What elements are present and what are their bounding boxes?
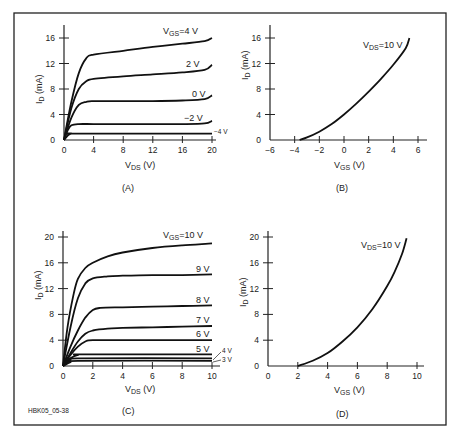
x-tick-label: 10 [207, 371, 217, 381]
x-tick-label: 4 [325, 371, 330, 381]
x-tick-label: 0 [61, 371, 66, 381]
y-tick-label: 20 [45, 232, 55, 242]
y-tick-label: 20 [250, 232, 260, 242]
y-tick-label: 16 [250, 258, 260, 268]
series-label-minus2v: −2 V [184, 113, 203, 123]
series-label-8v: 8 V [196, 295, 210, 305]
y-tick-label: 0 [256, 135, 261, 145]
x-tick-label: 8 [385, 371, 390, 381]
y-tick-label: 0 [254, 361, 259, 371]
x-axis-label: VGS (V) [334, 385, 365, 396]
curve-v-ds-10-v [298, 238, 407, 366]
x-tick-label: 0 [62, 145, 67, 155]
chart-panel-b: −6−4−202460481216 VDS=10 V VGS (V) ID (m… [240, 25, 427, 193]
series-label-9v: 9 V [196, 264, 210, 274]
y-tick-label: 8 [50, 84, 55, 94]
x-axis-label: VGS (V) [334, 160, 365, 171]
series-label-2v: 2 V [186, 59, 200, 69]
x-tick-label: 4 [91, 145, 96, 155]
series-label-vds-10: VDS=10 V [361, 240, 401, 251]
series-label-4v: 4 V [222, 347, 232, 354]
curve-3-v [63, 361, 212, 366]
x-tick-label: 4 [391, 145, 396, 155]
y-tick-label: 0 [50, 135, 55, 145]
x-tick-label: 12 [148, 145, 158, 155]
x-axis-label: VDS (V) [125, 384, 155, 395]
y-tick-label: 16 [252, 33, 262, 43]
series-label-vgs-10: VGS=10 V [163, 230, 203, 241]
x-tick-label: 6 [355, 371, 360, 381]
series-label-0v: 0 V [192, 89, 206, 99]
series-label-vgs-4: VGS=4 V [163, 26, 198, 37]
x-tick-label: 4 [120, 371, 125, 381]
chart-panel-c: 0246810048121620 VGS=10 V 9 V 8 V 7 V 6 … [28, 230, 232, 416]
x-tick-label: 0 [266, 371, 271, 381]
curve-9-v [63, 274, 212, 366]
leader-line-4v [213, 352, 221, 360]
y-tick-label: 12 [46, 59, 56, 69]
panel-caption: (A) [122, 183, 134, 193]
series-label-vds-10: VDS=10 V [363, 40, 403, 51]
panel-caption: (C) [122, 406, 135, 416]
leader-line-3v [213, 360, 221, 362]
series-label-7v: 7 V [196, 315, 210, 325]
y-axis-label: ID (mA) [33, 270, 44, 300]
y-tick-label: 8 [49, 309, 54, 319]
figure: 0481216200481216 VGS=4 V 2 V 0 V −2 V −4… [0, 0, 452, 434]
x-tick-label: 8 [121, 145, 126, 155]
x-axis-label: VDS (V) [125, 160, 155, 171]
x-tick-label: 8 [180, 371, 185, 381]
curve-6-v [63, 340, 212, 366]
y-tick-label: 4 [50, 110, 55, 120]
x-tick-label: 10 [412, 371, 422, 381]
series-label-minus4v: −4 V [214, 128, 228, 135]
series-label-6v: 6 V [196, 329, 210, 339]
y-axis-label: ID (mA) [240, 50, 251, 80]
x-tick-label: −4 [290, 145, 300, 155]
y-tick-label: 4 [49, 335, 54, 345]
curve-v-ds-10-v [300, 38, 410, 140]
series-label-3v: 3 V [222, 356, 232, 363]
y-tick-label: 12 [250, 284, 260, 294]
y-tick-label: 12 [45, 284, 55, 294]
chart-panel-d: 0246810048121620 VDS=10 V VGS (V) ID (mA… [238, 231, 424, 419]
x-tick-label: 6 [416, 145, 421, 155]
x-tick-label: 2 [295, 371, 300, 381]
curve--4-v [64, 133, 212, 140]
x-tick-label: −2 [314, 145, 324, 155]
curve--2-v [64, 121, 212, 140]
y-tick-label: 8 [254, 309, 259, 319]
x-tick-label: 0 [342, 145, 347, 155]
panel-caption: (B) [336, 183, 348, 193]
x-tick-label: 2 [366, 145, 371, 155]
y-axis-label: ID (mA) [238, 277, 249, 307]
panel-caption: (D) [336, 409, 349, 419]
y-tick-label: 16 [46, 33, 56, 43]
series-label-5v: 5 V [196, 344, 210, 354]
x-tick-label: 6 [150, 371, 155, 381]
x-tick-label: −6 [265, 145, 275, 155]
figure-credit: HBK05_05-38 [28, 407, 69, 415]
y-tick-label: 8 [256, 84, 261, 94]
x-tick-label: 2 [90, 371, 95, 381]
y-tick-label: 4 [254, 335, 259, 345]
curve-4-v [63, 358, 212, 366]
y-tick-label: 4 [256, 110, 261, 120]
y-tick-label: 16 [45, 258, 55, 268]
y-axis-label: ID (mA) [34, 74, 45, 104]
y-tick-label: 0 [49, 361, 54, 371]
x-tick-label: 20 [207, 145, 217, 155]
y-tick-label: 12 [252, 59, 262, 69]
chart-panel-a: 0481216200481216 VGS=4 V 2 V 0 V −2 V −4… [34, 25, 228, 193]
x-tick-label: 16 [178, 145, 188, 155]
curve-v-gs-10-v [63, 243, 212, 366]
curve-8-v [63, 305, 212, 366]
